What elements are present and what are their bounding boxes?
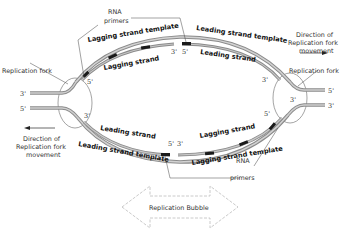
- left-parental-strands: [30, 82, 78, 118]
- end-top-right-3: 3': [262, 76, 268, 84]
- direction-left-label-2: Replication fork: [16, 143, 66, 151]
- end-left-top: 3': [20, 90, 26, 98]
- end-bottom-mid-5: 5': [168, 140, 174, 148]
- end-top-mid-3: 3': [171, 48, 177, 56]
- end-top-mid-5: 5': [182, 48, 188, 56]
- rna-primers-top-label-2: primers: [104, 17, 129, 25]
- direction-left-label-3: movement: [26, 151, 61, 159]
- end-right-fork-3: 3': [290, 96, 296, 104]
- rna-primers-bottom-label: RNA: [236, 157, 250, 165]
- fork-right-label: Replication fork: [289, 67, 339, 75]
- end-bottom-mid-3: 3': [177, 140, 183, 148]
- end-left-bottom: 5': [20, 105, 26, 113]
- end-bottom-right-5: 5': [264, 110, 270, 118]
- direction-right-label-3: movement: [299, 47, 334, 55]
- fork-left-label: Replication fork: [2, 67, 52, 75]
- end-right-top: 5': [328, 87, 334, 95]
- direction-right-label-1: Direction of: [296, 31, 334, 39]
- rna-primers-top-label: RNA: [108, 8, 122, 16]
- rna-primer: [182, 42, 191, 45]
- end-top-left-5: 5': [87, 78, 93, 86]
- leading-template-bottom-label: Leading strand template: [78, 140, 170, 164]
- end-right-bottom: 3': [328, 102, 334, 110]
- lagging-template-top-label: Lagging strand template: [87, 22, 180, 44]
- bubble-label: Replication Bubble: [149, 204, 209, 212]
- replication-bubble-diagram: RNA primers Lagging strand template Lagg…: [0, 0, 354, 248]
- direction-left-label-1: Direction of: [23, 135, 61, 143]
- leading-template-top-label: Leading strand template: [196, 24, 289, 45]
- direction-arrow-left: [24, 126, 55, 130]
- end-bottom-left-3: 3': [84, 112, 90, 120]
- direction-right-label-2: Replication fork: [288, 39, 338, 47]
- rna-primers-bottom-label-2: primers: [230, 174, 255, 182]
- lagging-strand-bottom-label: Lagging strand: [199, 122, 256, 140]
- rna-primer: [141, 45, 150, 49]
